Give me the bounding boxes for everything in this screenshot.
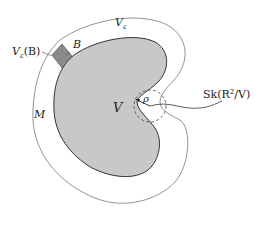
label-b: B	[72, 38, 81, 51]
label-v-epsilon-b: Vε(B)	[12, 45, 40, 60]
label-skeleton: Sk(R2/V)	[203, 88, 250, 101]
diagram-svg: V Vε Vε(B) B M ρ Sk(R2/V)	[0, 0, 267, 225]
diagram-canvas: V Vε Vε(B) B M ρ Sk(R2/V)	[0, 0, 267, 225]
label-m: M	[33, 108, 46, 121]
label-v: V	[113, 100, 124, 115]
label-rho: ρ	[142, 93, 149, 104]
